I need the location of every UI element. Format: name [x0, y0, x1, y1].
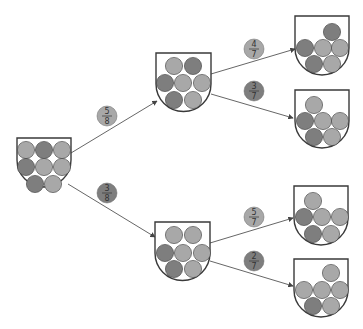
dark-ball: [305, 55, 322, 72]
numerator: 5: [251, 208, 256, 217]
denominator: 8: [104, 194, 109, 203]
dark-ball: [165, 91, 182, 108]
urn-lower: [155, 222, 211, 281]
dark-ball: [165, 260, 182, 277]
light-ball: [53, 141, 70, 158]
urn-upper-upper: [295, 16, 349, 75]
light-ball: [305, 96, 322, 113]
urn-upper: [156, 53, 211, 112]
light-ball: [313, 208, 330, 225]
light-ball: [17, 141, 34, 158]
dark-ball: [26, 175, 43, 192]
dark-ball: [295, 208, 312, 225]
numerator: 3: [251, 82, 256, 91]
light-ball: [322, 264, 339, 281]
badge-lower-lower: 2 7: [244, 251, 264, 271]
dark-ball: [305, 128, 322, 145]
light-ball: [165, 57, 182, 74]
urn-lower-upper: [294, 186, 349, 245]
probability-tree-diagram: 5 8 3 8 4 7 3 7 5 7 2 7: [0, 0, 363, 329]
denominator: 8: [104, 117, 109, 126]
dark-ball: [184, 57, 201, 74]
dark-ball: [296, 112, 313, 129]
light-ball: [174, 74, 191, 91]
light-ball: [313, 281, 330, 298]
dark-ball: [323, 23, 340, 40]
light-ball: [193, 244, 210, 261]
light-ball: [193, 74, 210, 91]
light-ball: [44, 175, 61, 192]
light-ball: [35, 158, 52, 175]
urn-root: [17, 138, 71, 193]
dark-ball: [156, 244, 173, 261]
badge-lower-upper: 5 7: [244, 207, 264, 227]
denominator: 7: [251, 50, 256, 59]
badge-root-upper: 5 8: [97, 106, 117, 126]
light-ball: [331, 208, 348, 225]
urn-upper-lower: [295, 90, 349, 148]
light-ball: [331, 112, 348, 129]
dark-ball: [304, 297, 321, 314]
light-ball: [314, 39, 331, 56]
light-ball: [184, 260, 201, 277]
light-ball: [322, 297, 339, 314]
light-ball: [165, 226, 182, 243]
badge-upper-lower: 3 7: [244, 81, 264, 101]
light-ball: [322, 225, 339, 242]
denominator: 7: [251, 218, 256, 227]
light-ball: [184, 226, 201, 243]
light-ball: [304, 192, 321, 209]
numerator: 5: [104, 107, 109, 116]
dark-ball: [304, 225, 321, 242]
dark-ball: [35, 141, 52, 158]
light-ball: [331, 39, 348, 56]
urn-lower-lower: [294, 259, 349, 317]
dark-ball: [296, 39, 313, 56]
numerator: 3: [104, 184, 109, 193]
light-ball: [184, 91, 201, 108]
light-ball: [314, 112, 331, 129]
denominator: 7: [251, 92, 256, 101]
dark-ball: [17, 158, 34, 175]
numerator: 2: [251, 252, 256, 261]
dark-ball: [156, 74, 173, 91]
light-ball: [331, 281, 348, 298]
light-ball: [295, 281, 312, 298]
badge-upper-upper: 4 7: [244, 39, 264, 59]
light-ball: [323, 55, 340, 72]
light-ball: [174, 244, 191, 261]
denominator: 7: [251, 262, 256, 271]
light-ball: [53, 158, 70, 175]
numerator: 4: [251, 40, 256, 49]
light-ball: [323, 128, 340, 145]
badge-root-lower: 3 8: [97, 183, 117, 203]
